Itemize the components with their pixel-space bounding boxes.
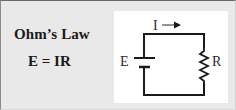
voltage-label: E xyxy=(120,54,129,69)
wire-loop xyxy=(144,34,204,95)
circuit-diagram-panel: I E R xyxy=(114,11,228,103)
resistance-label: R xyxy=(212,54,222,69)
current-arrow-icon xyxy=(162,22,181,29)
ohms-law-formula: E = IR xyxy=(28,53,71,70)
current-label: I xyxy=(153,18,158,33)
ohms-law-card: Ohm’s Law E = IR I E xyxy=(0,0,236,110)
resistor-icon xyxy=(200,48,208,83)
circuit-diagram: I E R xyxy=(114,11,228,103)
card-title: Ohm’s Law xyxy=(14,26,90,43)
battery-icon xyxy=(134,58,155,67)
